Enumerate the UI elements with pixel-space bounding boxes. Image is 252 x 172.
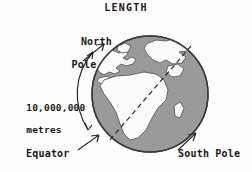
measurement-value: 10,000,000: [26, 102, 85, 113]
measurement-unit: metres: [2, 125, 86, 136]
south-pole-label: South Pole: [178, 148, 240, 160]
north-pole-label: North Pole: [55, 24, 113, 93]
length-diagram-figure: LENGTH North Pole 10,000,000 metres Equa…: [0, 0, 252, 172]
equator-label: Equator: [26, 148, 70, 160]
measure-arc-arrowhead-equator: [85, 123, 92, 130]
north-pole-label-line2: Pole: [55, 59, 113, 71]
north-pole-label-line1: North: [81, 36, 112, 47]
figure-title: LENGTH: [0, 2, 252, 14]
